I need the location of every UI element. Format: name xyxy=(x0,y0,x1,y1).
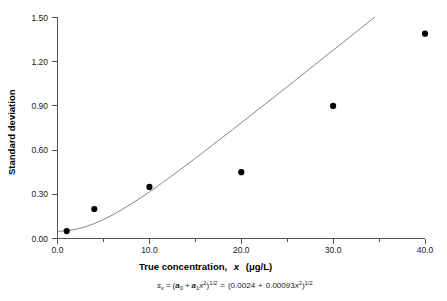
scatter-plot-svg: 0.00 0.30 0.60 0.90 1.20 1.50 0.0 10.0 2… xyxy=(0,0,447,301)
y-tick-label: 1.50 xyxy=(31,13,48,23)
x-tick-label: 10.0 xyxy=(141,245,158,255)
chart-figure: 0.00 0.30 0.60 0.90 1.20 1.50 0.0 10.0 2… xyxy=(0,0,447,301)
x-axis-title-variable: x xyxy=(233,261,240,272)
y-tick-label: 1.20 xyxy=(31,57,48,67)
eqn-plus-1: + xyxy=(185,281,190,290)
data-point xyxy=(330,103,336,109)
y-tick-label: 0.00 xyxy=(31,234,48,244)
x-tick-label: 30.0 xyxy=(325,245,342,255)
x-tick-label: 0.0 xyxy=(52,245,64,255)
x-axis-title-units: (μg/L) xyxy=(246,261,272,272)
data-point xyxy=(146,184,152,190)
x-tick-label: 20.0 xyxy=(233,245,250,255)
x-tick-label: 40.0 xyxy=(417,245,434,255)
data-point xyxy=(422,31,428,37)
eqn-power-1: 1/2 xyxy=(209,280,217,286)
x-axis-title-main: True concentration, xyxy=(139,261,227,272)
y-axis-title: Standard deviation xyxy=(6,89,17,175)
eqn-power-2: 1/2 xyxy=(305,280,313,286)
eqn-const-a1: 0.00093 xyxy=(266,281,295,290)
eqn-equals-1: = xyxy=(166,281,171,290)
x-axis-title: True concentration, x (μg/L) xyxy=(139,261,272,272)
eqn-a0-subscript: 0 xyxy=(180,285,183,291)
data-point xyxy=(238,169,244,175)
data-point xyxy=(64,228,70,234)
data-point xyxy=(91,206,97,212)
y-tick-label: 0.60 xyxy=(31,145,48,155)
eqn-equals-2: = xyxy=(220,281,225,290)
plot-background xyxy=(0,0,447,301)
svg-text:True concentration, x: True concentration, x (μg/L) xyxy=(139,261,272,272)
eqn-plus-2: + xyxy=(258,281,263,290)
eqn-const-a0: 0.0024 xyxy=(231,281,256,290)
y-tick-label: 0.90 xyxy=(31,101,48,111)
y-tick-label: 0.30 xyxy=(31,189,48,199)
